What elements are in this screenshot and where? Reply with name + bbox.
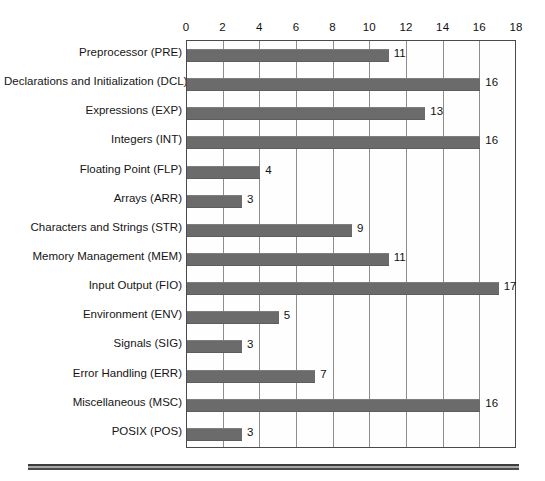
category-label: Input Output (FIO) — [4, 279, 186, 291]
category-label: Integers (INT) — [4, 133, 186, 145]
bar-value-label: 16 — [480, 134, 498, 146]
category-label: Declarations and Initialization (DCL) — [4, 75, 186, 87]
bar-value-label: 11 — [389, 47, 406, 59]
bar — [187, 78, 480, 91]
bar — [187, 253, 389, 266]
x-tick-label-6: 6 — [283, 21, 309, 33]
bar-value-label: 9 — [352, 222, 363, 234]
x-tick-label-4: 4 — [246, 21, 272, 33]
category-axis-labels: Preprocessor (PRE)Declarations and Initi… — [0, 40, 186, 448]
bar-row: 9 — [187, 216, 515, 245]
bar-value-label: 5 — [279, 309, 290, 321]
category-label: Environment (ENV) — [4, 308, 186, 320]
bar — [187, 195, 242, 208]
bar-chart: 024681012141618 Preprocessor (PRE)Declar… — [0, 0, 545, 481]
bar — [187, 311, 279, 324]
x-tick-label-12: 12 — [393, 21, 419, 33]
bar — [187, 107, 425, 120]
category-label: Error Handling (ERR) — [4, 367, 186, 379]
rule-line-bottom — [28, 468, 519, 470]
bar-value-label: 7 — [315, 368, 326, 380]
bar — [187, 340, 242, 353]
bar-value-label: 3 — [242, 193, 253, 205]
bar-row: 7 — [187, 362, 515, 391]
x-tick-label-8: 8 — [320, 21, 346, 33]
bar-value-label: 3 — [242, 426, 253, 438]
bar-row: 13 — [187, 99, 515, 128]
bar-value-label: 11 — [389, 251, 406, 263]
x-tick-label-16: 16 — [466, 21, 492, 33]
bar — [187, 166, 260, 179]
bar-value-label: 16 — [480, 397, 498, 409]
category-label: POSIX (POS) — [4, 425, 186, 437]
bar-row: 3 — [187, 332, 515, 361]
bar-value-label: 16 — [480, 76, 498, 88]
category-label: Signals (SIG) — [4, 337, 186, 349]
bar-row: 16 — [187, 128, 515, 157]
bar-row: 16 — [187, 70, 515, 99]
x-tick-label-10: 10 — [356, 21, 382, 33]
category-label: Expressions (EXP) — [4, 104, 186, 116]
x-tick-label-14: 14 — [430, 21, 456, 33]
plot-area: 111613164391117537163 — [186, 40, 516, 448]
bar-value-label: 4 — [260, 164, 271, 176]
bar-value-label: 17 — [499, 280, 517, 292]
bar-row: 11 — [187, 41, 515, 70]
bar — [187, 136, 480, 149]
bar-row: 11 — [187, 245, 515, 274]
category-label: Arrays (ARR) — [4, 192, 186, 204]
bar-row: 3 — [187, 420, 515, 449]
category-label: Memory Management (MEM) — [4, 250, 186, 262]
bar — [187, 49, 389, 62]
x-tick-label-2: 2 — [210, 21, 236, 33]
bar — [187, 282, 499, 295]
bar — [187, 370, 315, 383]
category-label: Floating Point (FLP) — [4, 163, 186, 175]
category-label: Characters and Strings (STR) — [4, 221, 186, 233]
bar-row: 5 — [187, 303, 515, 332]
category-label: Miscellaneous (MSC) — [4, 396, 186, 408]
bar-value-label: 13 — [425, 105, 443, 117]
bar-row: 16 — [187, 391, 515, 420]
bar — [187, 399, 480, 412]
category-label: Preprocessor (PRE) — [4, 46, 186, 58]
x-tick-label-18: 18 — [503, 21, 529, 33]
x-tick-label-0: 0 — [173, 21, 199, 33]
bar-row: 3 — [187, 187, 515, 216]
bar-row: 4 — [187, 158, 515, 187]
bar-value-label: 3 — [242, 338, 253, 350]
bottom-decorative-rule — [28, 464, 519, 470]
bar — [187, 428, 242, 441]
bar-row: 17 — [187, 274, 515, 303]
bar — [187, 224, 352, 237]
